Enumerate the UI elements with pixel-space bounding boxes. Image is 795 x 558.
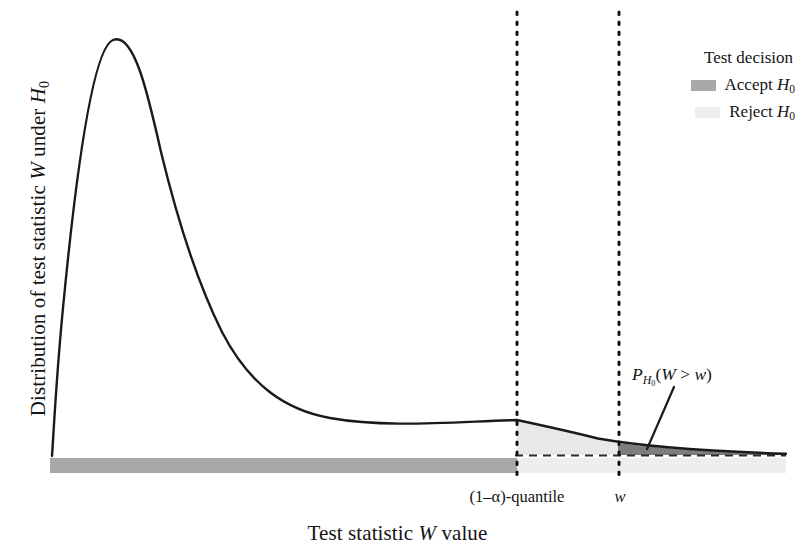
legend-item-reject[interactable]: Reject H0 xyxy=(650,102,795,122)
legend-label-accept-var: H xyxy=(777,75,789,94)
y-axis-title-null-subscript: 0 xyxy=(36,81,52,88)
legend-item-accept[interactable]: Accept H0 xyxy=(650,75,795,95)
annotation-operator: > xyxy=(676,364,695,384)
annotation-p-subscript: H0 xyxy=(643,373,656,387)
legend-swatch-accept-icon xyxy=(691,80,716,91)
x-tick-label-w-text: w xyxy=(614,487,625,506)
y-axis-title-variable: W xyxy=(26,162,50,180)
p-value-annotation: PH0(W > w) xyxy=(632,364,712,385)
legend-label-reject-var: H xyxy=(777,102,789,121)
alpha-shaded-region xyxy=(517,420,618,455)
legend-label-accept-sub: 0 xyxy=(789,83,795,96)
annotation-p-subscript-num: 0 xyxy=(651,379,655,388)
y-axis-title-mid: under xyxy=(26,103,50,162)
annotation-close-paren: ) xyxy=(706,364,712,384)
x-tick-label-quantile: (1–α)-quantile xyxy=(470,487,565,507)
annotation-stat-var: W xyxy=(661,364,676,384)
decision-bar-reject-segment xyxy=(517,458,786,473)
distribution-curve xyxy=(52,39,410,455)
legend-label-accept-prefix: Accept xyxy=(725,75,777,94)
legend: Test decision Accept H0 Reject H0 xyxy=(650,48,795,122)
legend-label-reject: Reject H0 xyxy=(729,102,795,122)
annotation-p-symbol: P xyxy=(632,364,643,384)
legend-label-reject-prefix: Reject xyxy=(729,102,777,121)
y-axis-title-prefix: Distribution of test statistic xyxy=(26,180,50,416)
annotation-value-var: w xyxy=(694,364,706,384)
legend-label-accept: Accept H0 xyxy=(725,75,795,95)
y-axis-title: Distribution of test statistic W under H… xyxy=(26,14,51,484)
statistical-test-chart: Test statistic W value Distribution of t… xyxy=(0,0,795,558)
annotation-leader-line xyxy=(647,387,674,449)
legend-title: Test decision xyxy=(650,48,795,68)
x-axis-title-suffix: value xyxy=(436,521,487,545)
y-axis-title-null-hypothesis: H xyxy=(26,88,50,103)
density-curve-render xyxy=(52,39,455,470)
legend-swatch-reject-icon xyxy=(695,107,720,118)
legend-label-reject-sub: 0 xyxy=(789,110,795,123)
x-tick-label-w: w xyxy=(614,487,625,507)
x-axis-title-variable: W xyxy=(418,521,436,545)
x-axis-title: Test statistic W value xyxy=(0,521,795,546)
x-axis-title-prefix: Test statistic xyxy=(308,521,419,545)
decision-bar-accept-segment xyxy=(50,458,517,473)
